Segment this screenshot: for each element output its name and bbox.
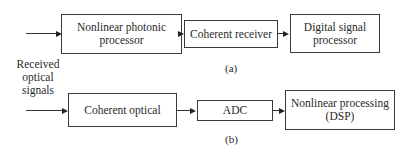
arrowhead: [283, 31, 289, 37]
block-nonlinear-processing-dsp: Nonlinear processing(DSP): [285, 90, 395, 130]
input-label: Received optical signals: [14, 58, 62, 97]
input-arrow-a: [26, 33, 56, 34]
block-coherent-optical: Coherent optical: [68, 93, 177, 127]
block-digital-signal-processor: Digital signalprocessor: [290, 14, 380, 53]
caption-b: (b): [225, 133, 238, 145]
arrow-b-1: [177, 110, 191, 111]
block-coherent-receiver: Coherent receiver: [184, 20, 278, 48]
caption-a: (a): [225, 62, 237, 74]
input-arrow-b: [26, 110, 63, 111]
block-nonlinear-photonic-processor: Nonlinear photonicprocessor: [61, 14, 182, 54]
arrowhead: [190, 108, 196, 114]
block-adc: ADC: [197, 100, 273, 121]
